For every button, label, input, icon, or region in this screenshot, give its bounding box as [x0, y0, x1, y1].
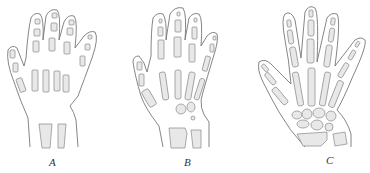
hand-figure-b	[115, 0, 240, 150]
panel-label-b: B	[184, 156, 191, 168]
panel-label-c: C	[326, 154, 333, 166]
hand-figure-c	[235, 0, 370, 150]
hand-figure-a	[0, 0, 120, 150]
panel-label-a: A	[49, 156, 56, 168]
